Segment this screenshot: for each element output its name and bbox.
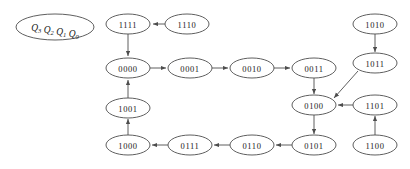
node-label-1100: 1100 [365,141,384,151]
state-node-0100[interactable]: 0100 [292,95,336,115]
node-label-1001: 1001 [118,104,137,114]
state-variable-legend: Q3 Q2 Q1 Q0 [16,14,94,40]
state-node-0110[interactable]: 0110 [230,135,274,155]
edge-1011-to-0100 [334,71,358,98]
state-node-1101[interactable]: 1101 [353,95,397,115]
state-node-1001[interactable]: 1001 [106,98,150,118]
node-label-0001: 0001 [180,64,199,74]
state-node-0010[interactable]: 0010 [230,58,274,78]
nodes-layer: 1111111010100000000100100011101110010100… [106,14,397,155]
edges-layer [128,24,375,145]
state-node-0111[interactable]: 0111 [168,135,212,155]
state-node-1010[interactable]: 1010 [353,14,397,34]
node-label-0110: 0110 [242,141,261,151]
state-node-1111[interactable]: 1111 [106,14,150,34]
state-node-1110[interactable]: 1110 [165,14,209,34]
state-transition-diagram: 1111111010100000000100100011101110010100… [0,0,410,169]
node-label-0101: 0101 [304,141,323,151]
diagram-canvas: 1111111010100000000100100011101110010100… [0,0,410,169]
node-label-1010: 1010 [365,20,384,30]
node-label-0011: 0011 [304,64,323,74]
node-label-1101: 1101 [365,101,384,111]
node-label-0000: 0000 [118,64,137,74]
state-node-0000[interactable]: 0000 [106,58,150,78]
state-node-0011[interactable]: 0011 [292,58,336,78]
state-node-1100[interactable]: 1100 [353,135,397,155]
node-label-1110: 1110 [178,20,197,30]
node-label-0100: 0100 [304,101,323,111]
state-node-1011[interactable]: 1011 [353,53,397,73]
state-node-0001[interactable]: 0001 [168,58,212,78]
node-label-1111: 1111 [119,20,137,30]
node-label-1011: 1011 [365,59,384,69]
node-label-1000: 1000 [118,141,137,151]
state-node-0101[interactable]: 0101 [292,135,336,155]
node-label-0111: 0111 [181,141,200,151]
node-label-0010: 0010 [242,64,261,74]
state-node-1000[interactable]: 1000 [106,135,150,155]
